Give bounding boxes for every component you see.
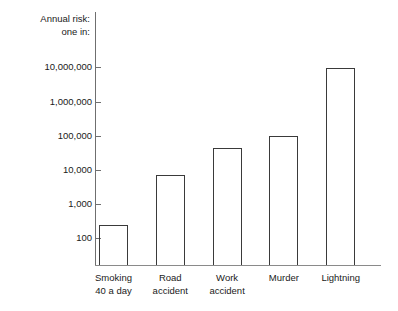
- y-tick-label-10000000: 10,000,000: [6, 62, 92, 72]
- x-category-label-lightning: Lightning: [296, 272, 386, 285]
- y-tick-label-1000000: 1,000,000: [6, 97, 92, 107]
- plot-area: Annual risk: one in: 10,000,000 1,000,00…: [0, 0, 398, 311]
- bar-road-accident: [156, 175, 185, 265]
- y-tick-mark-10000: [96, 170, 101, 171]
- x-category-label-line-1: Murder: [269, 272, 299, 283]
- x-category-label-line-1: Lightning: [321, 272, 360, 283]
- y-tick-mark-1000000: [96, 102, 101, 103]
- y-tick-label-10000: 10,000: [6, 165, 92, 175]
- y-tick-label-100000: 100,000: [6, 131, 92, 141]
- y-tick-mark-100000: [96, 136, 101, 137]
- y-tick-mark-1000: [96, 204, 101, 205]
- x-category-label-line-1: Work: [216, 272, 238, 283]
- x-category-label-line-1: Road: [159, 272, 182, 283]
- bar-work-accident: [213, 148, 242, 265]
- y-tick-label-1000: 1,000: [6, 199, 92, 209]
- bar-lightning: [326, 68, 355, 265]
- risk-bar-chart: Annual risk: one in: 10,000,000 1,000,00…: [0, 0, 398, 311]
- y-tick-label-100: 100: [6, 233, 92, 243]
- y-axis-line: [95, 12, 96, 266]
- y-tick-mark-10000000: [96, 67, 101, 68]
- bar-murder: [269, 136, 298, 265]
- x-category-label-line-2: accident: [182, 285, 272, 298]
- y-axis-title-line-2: one in:: [61, 26, 90, 37]
- y-axis-title: Annual risk: one in:: [8, 13, 90, 38]
- x-axis-line: [95, 265, 381, 266]
- bar-smoking-40-a-day: [99, 225, 128, 265]
- y-axis-title-line-1: Annual risk:: [40, 13, 90, 24]
